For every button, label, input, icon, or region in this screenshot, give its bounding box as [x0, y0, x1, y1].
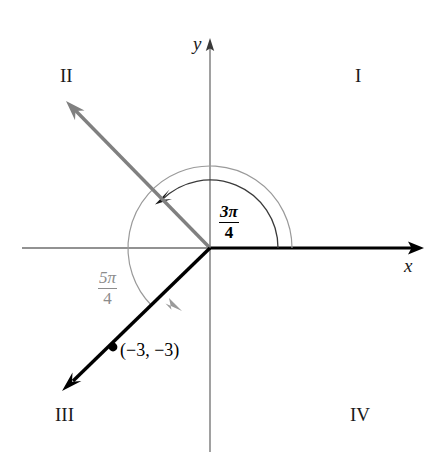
terminal-ray-5pi-4: [73, 248, 210, 381]
angle-label-3pi-4-denominator: 4: [218, 223, 240, 242]
x-axis-label: x: [404, 256, 412, 275]
point-coordinate-label: (−3, −3): [120, 341, 179, 359]
angle-label-3pi-4: 3π 4: [218, 203, 240, 242]
y-axis-label: y: [193, 34, 201, 53]
quadrant-label-1: I: [355, 66, 361, 85]
plotted-point-marker: [109, 343, 118, 352]
quadrant-label-4: IV: [350, 405, 370, 424]
terminal-ray-3pi-4: [75, 110, 210, 248]
arc-5pi-4-arrowhead: [166, 298, 183, 311]
angle-label-3pi-4-numerator: 3π: [218, 203, 240, 222]
quadrant-label-2: II: [60, 66, 73, 85]
quadrant-label-3: III: [55, 405, 74, 424]
angle-label-5pi-4-numerator: 5π: [97, 269, 118, 288]
angle-label-5pi-4: 5π 4: [97, 269, 118, 308]
angle-label-5pi-4-denominator: 4: [97, 289, 118, 308]
